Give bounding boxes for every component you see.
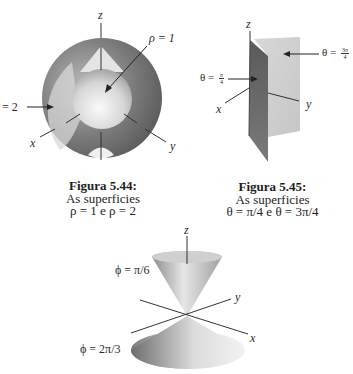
x-axis-line — [225, 88, 249, 103]
fraction: 3π4 — [341, 47, 349, 60]
phi-2pi3-label: ϕ = 2π/3 — [80, 343, 120, 355]
theta-pi4-label: θ = π4 — [200, 72, 224, 85]
theta-3pi4-label: θ = 3π4 — [322, 47, 349, 60]
plane-theta-pi4 — [249, 40, 268, 162]
cones-x-label: x — [250, 332, 255, 344]
caption-line: ρ = 1 e ρ = 2 — [43, 205, 163, 218]
cones-y-label: y — [235, 291, 240, 303]
cones-figure — [131, 236, 248, 369]
cone-phi-2pi3-base — [131, 331, 245, 369]
planes-x-label: x — [216, 103, 221, 115]
caption-line: θ = π/4 e θ = 3π/4 — [205, 206, 340, 219]
sphere-z-label: z — [98, 9, 103, 21]
fraction: π4 — [219, 72, 224, 85]
sphere-x-label: x — [30, 137, 35, 149]
planes-y-label: y — [306, 98, 311, 110]
rho2-label: = 2 — [2, 101, 18, 113]
sphere-y-label: y — [170, 140, 175, 152]
cones-z-label: z — [184, 224, 189, 236]
sphere-figure — [27, 23, 166, 160]
figure-544-caption: Figura 5.44: As superficies ρ = 1 e ρ = … — [43, 180, 163, 218]
phi-pi6-label: ϕ = π/6 — [115, 264, 149, 276]
planes-z-label: z — [246, 18, 251, 30]
planes-figure — [225, 31, 319, 162]
inner-sphere — [72, 69, 132, 129]
rho1-label: ρ = 1 — [149, 32, 175, 44]
figure-545-caption: Figura 5.45: As superficies θ = π/4 e θ … — [205, 181, 340, 219]
